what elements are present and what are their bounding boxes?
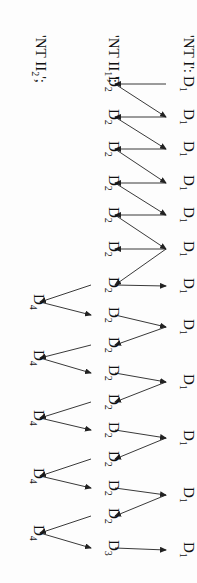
node-d1: D1 <box>178 207 197 223</box>
node-d1: D1 <box>178 430 197 446</box>
node-d2: D2 <box>103 508 122 524</box>
node-d2: D2 <box>103 365 122 381</box>
node-d2: D2 <box>103 207 122 223</box>
node-d2: D2 <box>103 337 122 353</box>
node-d4: D4 <box>28 410 47 426</box>
node-d1: D1 <box>178 374 197 390</box>
node-d2: D2 <box>103 175 122 191</box>
node-d1: D1 <box>178 76 197 92</box>
node-d4: D4 <box>28 468 47 484</box>
node-d3: D3 <box>103 540 122 556</box>
node-d1: D1 <box>178 141 197 157</box>
node-d1: D1 <box>178 319 197 335</box>
node-d4: D4 <box>28 525 47 541</box>
node-d2: D2 <box>103 109 122 125</box>
node-d4: D4 <box>28 350 47 366</box>
row-label: 'NT I': <box>181 35 197 73</box>
node-d1: D1 <box>178 175 197 191</box>
node-d2: D2 <box>103 307 122 323</box>
row-label: 'NT II1'; <box>103 35 122 83</box>
row-label-layer: 'NT I':'NT II1';'NT II2'; <box>30 35 197 83</box>
node-d2: D2 <box>103 394 122 410</box>
node-d4: D4 <box>28 294 47 310</box>
node-d2: D2 <box>103 277 122 293</box>
node-d1: D1 <box>178 487 197 503</box>
node-d2: D2 <box>103 422 122 438</box>
row-label: 'NT II2'; <box>30 35 49 83</box>
state-transition-diagram: D1D2D1D2D1D2D1D2D1D2D1D2D2D1D4D2D1D2D4D2… <box>0 0 197 583</box>
node-d2: D2 <box>103 480 122 496</box>
node-d1: D1 <box>178 542 197 558</box>
arrow-layer <box>40 84 166 550</box>
node-layer: D1D2D1D2D1D2D1D2D1D2D1D2D2D1D4D2D1D2D4D2… <box>28 76 197 558</box>
node-d2: D2 <box>103 141 122 157</box>
node-d1: D1 <box>178 278 197 294</box>
node-d2: D2 <box>103 451 122 467</box>
node-d1: D1 <box>178 241 197 257</box>
node-d1: D1 <box>178 109 197 125</box>
diagram-canvas: D1D2D1D2D1D2D1D2D1D2D1D2D2D1D4D2D1D2D4D2… <box>0 0 197 583</box>
node-d2: D2 <box>103 241 122 257</box>
